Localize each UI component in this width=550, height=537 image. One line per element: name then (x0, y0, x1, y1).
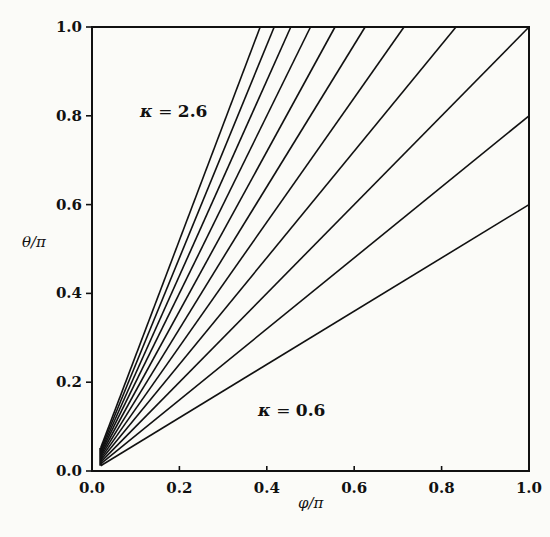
y-tick-label: 0.6 (56, 196, 82, 214)
x-tick-label: 0.2 (166, 479, 192, 497)
y-axis-label: θ/π (22, 233, 47, 251)
series-line-kappa-1-6 (101, 27, 365, 457)
series-line-kappa-1-4 (101, 27, 404, 459)
y-tick-label: 0.2 (56, 373, 82, 391)
x-tick-label: 0.0 (79, 479, 105, 497)
series-line-kappa-1-8 (101, 27, 335, 455)
y-tick-label: 0.0 (56, 462, 82, 480)
series-line-kappa-2 (101, 27, 311, 453)
chart: 0.00.20.40.60.81.0 0.00.20.40.60.81.0 θ/… (0, 0, 550, 537)
annotation-kappa-high: κ = 2.6 (139, 101, 207, 121)
x-tick-label: 0.6 (341, 479, 367, 497)
y-tick-label: 0.8 (56, 107, 82, 125)
y-tick-labels: 0.00.20.40.60.81.0 (56, 18, 82, 480)
y-tick-label: 0.4 (56, 284, 82, 302)
series-line-kappa-2-4 (101, 27, 275, 450)
series-line-kappa-2-2 (101, 27, 291, 452)
y-tick-label: 1.0 (56, 18, 82, 36)
x-tick-label: 1.0 (516, 479, 542, 497)
annotation-kappa-low: κ = 0.6 (257, 400, 325, 420)
x-tick-label: 0.8 (429, 479, 455, 497)
x-axis-label: φ/π (298, 494, 325, 512)
x-tick-label: 0.4 (254, 479, 280, 497)
